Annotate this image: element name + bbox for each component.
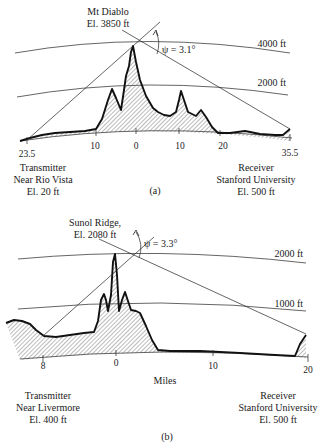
tick-b-20: 20: [303, 365, 313, 375]
caption-b: (b): [161, 431, 173, 443]
tick-a-20: 20: [218, 141, 228, 151]
contour-4000ft: [15, 42, 290, 54]
receiver-a-line1: Receiver: [238, 162, 274, 173]
peak-label-b-2: El. 2080 ft: [74, 229, 117, 240]
axis-label-miles: Miles: [154, 375, 177, 386]
left-end-a: 23.5: [19, 149, 36, 159]
peak-label-a-1: Mt Diablo: [87, 6, 128, 17]
transmitter-b-line3: El. 400 ft: [29, 414, 67, 425]
transmitter-a-line2: Near Rio Vista: [13, 174, 73, 185]
caption-a: (a): [149, 185, 160, 197]
receiver-b-line2: Stanford University: [238, 402, 317, 413]
contour-2000ft-b: [18, 253, 306, 263]
tick-b-10: 10: [208, 361, 218, 371]
diffraction-profile-diagram: Mt Diablo El. 3850 ft ψ = 3.1° 4000 ft 2…: [0, 0, 328, 448]
receiver-a-line3: El. 500 ft: [237, 186, 275, 197]
tick-a-10-right: 10: [175, 141, 185, 151]
peak-label-b-1: Sunol Ridge,: [69, 217, 121, 228]
contour-label-4000: 4000 ft: [257, 38, 286, 49]
terrain-fill-a: [20, 46, 290, 142]
contour-label-2000: 2000 ft: [257, 77, 286, 88]
tick-a-0: 0: [134, 141, 139, 151]
transmitter-b-line1: Transmitter: [25, 390, 72, 401]
peak-label-a-2: El. 3850 ft: [87, 18, 130, 29]
contour-1000ft-b: [18, 303, 306, 311]
tick-b-8: 8: [41, 361, 46, 371]
angle-arc-b: [136, 232, 141, 258]
contour-label-1000-b: 1000 ft: [274, 298, 303, 309]
right-end-a: 35.5: [282, 148, 299, 158]
transmitter-a-line1: Transmitter: [20, 162, 67, 173]
tick-a-10-left: 10: [90, 141, 100, 151]
panel-b: Sunol Ridge, El. 2080 ft ψ = 3.3° 2000 f…: [6, 217, 318, 443]
contour-2000ft: [17, 85, 288, 97]
contour-label-2000-b: 2000 ft: [274, 248, 303, 259]
angle-label-b: ψ = 3.3°: [144, 238, 177, 249]
receiver-b-line3: El. 500 ft: [259, 414, 297, 425]
receiver-b-line1: Receiver: [260, 390, 296, 401]
angle-label-a: ψ = 3.1°: [162, 44, 195, 55]
receiver-a-line2: Stanford University: [216, 174, 295, 185]
tick-b-0: 0: [114, 358, 119, 368]
transmitter-b-line2: Near Livermore: [16, 402, 81, 413]
panel-a: Mt Diablo El. 3850 ft ψ = 3.1° 4000 ft 2…: [13, 6, 298, 197]
transmitter-a-line3: El. 20 ft: [27, 186, 60, 197]
